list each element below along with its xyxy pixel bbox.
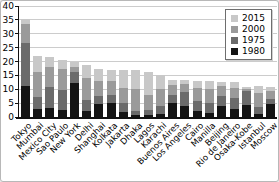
bar-segment-1980: [230, 109, 239, 117]
bar-segment-2015: [70, 62, 79, 67]
bar-new-york: [70, 6, 79, 117]
bar-los-angeles: [180, 6, 189, 117]
bar-jakarta: [119, 6, 128, 117]
legend-label: 2015: [242, 14, 265, 23]
bar-segment-2015: [107, 70, 116, 81]
bar-segment-2015: [82, 65, 91, 78]
y-tick-label: 25: [3, 43, 14, 52]
bar-delhi: [82, 6, 91, 117]
bar-segment-2015: [193, 81, 202, 88]
bar-segment-1975: [45, 87, 54, 108]
y-tick-mark: [15, 19, 19, 20]
legend-item-1980: 1980: [231, 46, 265, 56]
bar-segment-1975: [21, 43, 30, 85]
y-tick-label: 15: [3, 71, 14, 80]
y-tick-label: 10: [3, 85, 14, 94]
bar-segment-2000: [119, 88, 128, 103]
legend-swatch-icon: [231, 26, 238, 33]
bar-segment-1980: [21, 86, 30, 117]
legend-swatch-icon: [231, 37, 238, 44]
bar-segment-2000: [131, 89, 140, 111]
bar-segment-2015: [94, 69, 103, 81]
bar-segment-2015: [242, 87, 251, 89]
bar-segment-2000: [107, 81, 116, 95]
bar-segment-2000: [33, 72, 42, 98]
bar-segment-1975: [254, 107, 263, 114]
bar-dhaka: [131, 6, 140, 117]
bar-segment-2000: [82, 78, 91, 100]
bar-segment-2000: [242, 89, 251, 91]
bar-segment-2000: [144, 95, 153, 110]
y-axis-line: [18, 6, 19, 118]
bar-segment-2015: [58, 60, 67, 69]
bar-segment-1975: [217, 96, 226, 106]
bar-segment-2000: [168, 85, 177, 95]
bar-tokyo: [21, 6, 30, 117]
bar-segment-1975: [33, 97, 42, 109]
bar-segment-2015: [45, 57, 54, 66]
bar-segment-1975: [205, 103, 214, 113]
bar-segment-1980: [70, 83, 79, 117]
bar-segment-2015: [33, 56, 42, 72]
bar-segment-2015: [131, 70, 140, 88]
bar-segment-1975: [242, 91, 251, 105]
legend-item-1975: 1975: [231, 35, 265, 45]
bar-segment-1975: [94, 96, 103, 104]
legend-label: 1980: [242, 47, 265, 56]
bar-segment-2000: [70, 67, 79, 73]
y-tick-mark: [15, 47, 19, 48]
bar-segment-2015: [144, 72, 153, 94]
y-tick-label: 0: [8, 113, 14, 122]
bar-shanghai: [94, 6, 103, 117]
bar-segment-1975: [156, 106, 165, 114]
bar-segment-2015: [21, 19, 30, 25]
bar-segment-2015: [180, 80, 189, 84]
bar-kolkata: [107, 6, 116, 117]
bar-segment-2000: [217, 86, 226, 96]
y-tick-mark: [15, 33, 19, 34]
y-tick-label: 20: [3, 57, 14, 66]
bar-segment-1980: [217, 106, 226, 117]
bar-segment-1975: [107, 95, 116, 104]
bar-karachi: [156, 6, 165, 117]
y-tick-label: 35: [3, 15, 14, 24]
bar-segment-1975: [193, 101, 202, 111]
bar-segment-1975: [58, 90, 67, 110]
y-tick-label: 40: [3, 2, 14, 11]
x-axis-labels: TokyoMumbaiMexico CitySao PauloNew YorkD…: [19, 117, 277, 181]
bar-lagos: [144, 6, 153, 117]
y-tick-mark: [15, 89, 19, 90]
legend-swatch-icon: [231, 15, 238, 22]
bar-segment-1975: [180, 92, 189, 106]
y-tick-mark: [15, 6, 19, 7]
bar-segment-1980: [33, 109, 42, 117]
bar-segment-1975: [144, 110, 153, 116]
bar-segment-2015: [266, 87, 275, 90]
legend: 2015200019751980: [225, 9, 272, 60]
bar-segment-2015: [168, 80, 177, 85]
legend-item-2015: 2015: [231, 13, 265, 23]
y-tick-label: 30: [3, 29, 14, 38]
legend-label: 2000: [242, 25, 265, 34]
bar-segment-1975: [131, 111, 140, 115]
population-bar-chart: 0510152025303540 TokyoMumbaiMexico CityS…: [0, 0, 279, 182]
bar-segment-2000: [254, 93, 263, 107]
bar-segment-1980: [180, 106, 189, 117]
bar-segment-1980: [94, 104, 103, 117]
bar-segment-1980: [168, 103, 177, 117]
y-tick-mark: [15, 75, 19, 76]
bar-segment-2000: [45, 67, 54, 88]
y-tick-mark: [15, 103, 19, 104]
bar-segment-2015: [205, 81, 214, 88]
bar-segment-2015: [230, 82, 239, 88]
bar-segment-2000: [94, 81, 103, 96]
bar-segment-1980: [45, 108, 54, 117]
bar-segment-1980: [266, 104, 275, 117]
bar-segment-1980: [58, 110, 67, 117]
bar-segment-1975: [230, 98, 239, 109]
bar-segment-2000: [266, 91, 275, 99]
bar-segment-1975: [70, 72, 79, 83]
bar-segment-2000: [58, 69, 67, 90]
bar-segment-2015: [119, 70, 128, 87]
bar-segment-2015: [254, 86, 263, 92]
